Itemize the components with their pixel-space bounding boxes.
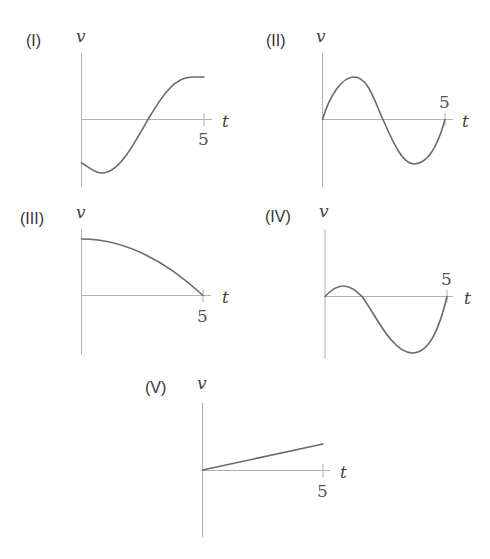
graph-panel-iv: (IV) v 5 t <box>265 201 471 359</box>
graph-panel-ii: (II) v 5 t <box>266 26 469 187</box>
graph-panel-v: (V) v 5 t <box>145 373 347 537</box>
graph-panel-iii: (III) v 5 t <box>20 202 229 354</box>
panel-label: (IV) <box>265 208 291 225</box>
y-axis-label: v <box>197 373 207 393</box>
panel-label: (II) <box>266 32 286 49</box>
velocity-curve <box>323 77 446 164</box>
velocity-graphs: (I) v 5 t (II) v 5 t (III) v 5 t (IV) v <box>0 0 490 559</box>
tick-label: 5 <box>439 92 450 112</box>
y-axis-label: v <box>76 202 86 222</box>
panel-label: (I) <box>26 32 41 49</box>
x-axis-label: t <box>222 287 229 307</box>
y-axis-label: v <box>319 201 329 221</box>
x-axis-label: t <box>462 111 469 131</box>
x-axis-label: t <box>222 111 229 131</box>
tick-label: 5 <box>441 269 452 289</box>
tick-label: 5 <box>198 129 209 149</box>
panel-label: (V) <box>145 379 166 396</box>
x-axis-label: t <box>340 462 347 482</box>
panel-label: (III) <box>20 210 44 227</box>
velocity-curve <box>82 77 205 173</box>
velocity-curve <box>82 239 204 296</box>
velocity-line <box>203 444 324 470</box>
x-axis-label: t <box>464 288 471 308</box>
y-axis-label: v <box>316 26 326 46</box>
y-axis-label: v <box>76 26 86 46</box>
graph-panel-i: (I) v 5 t <box>26 26 229 187</box>
tick-label: 5 <box>197 306 208 326</box>
tick-label: 5 <box>317 481 328 501</box>
